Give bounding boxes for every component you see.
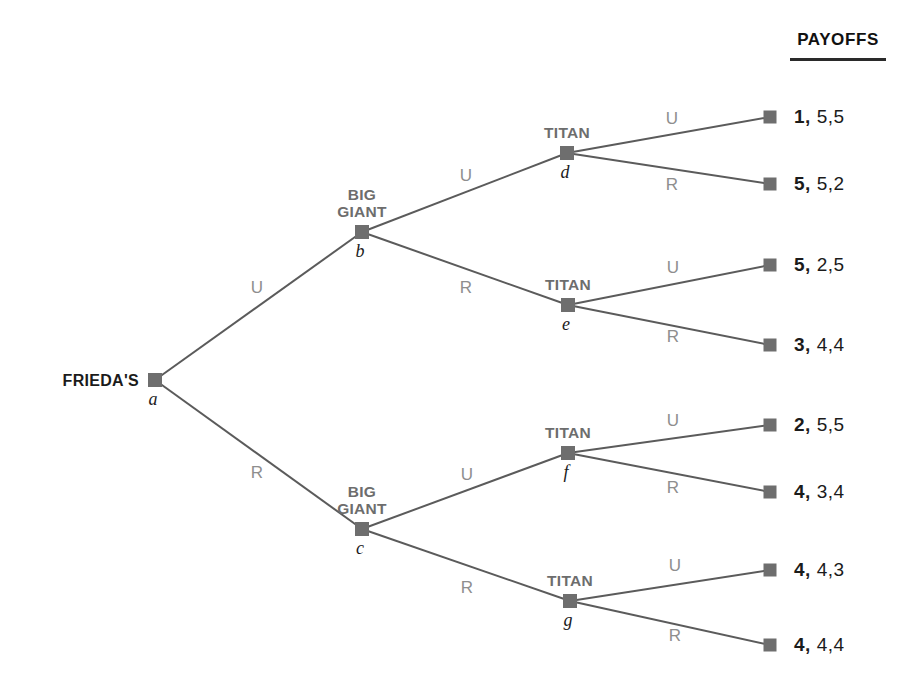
- branch-label-a-r: R: [251, 463, 263, 483]
- node-label-g: g: [564, 610, 573, 631]
- branch-label-d-r: R: [666, 175, 678, 195]
- decision-node-a[interactable]: [148, 373, 162, 387]
- branch-label-c-u: U: [461, 465, 473, 485]
- branch-label-e-u: U: [667, 258, 679, 278]
- node-label-c: c: [356, 538, 364, 559]
- payoff-t8: 4, 4,4: [794, 634, 845, 656]
- terminal-node-t5[interactable]: [764, 419, 777, 432]
- player-label-g: TITAN: [547, 572, 593, 589]
- terminal-node-t1[interactable]: [764, 111, 777, 124]
- terminal-node-t6[interactable]: [764, 486, 777, 499]
- payoff-t4: 3, 4,4: [794, 334, 845, 356]
- branch-label-c-r: R: [461, 578, 473, 598]
- node-label-b: b: [356, 241, 365, 262]
- payoff-t2: 5, 5,2: [794, 173, 845, 195]
- game-tree-diagram: PAYOFFS FRIEDA'SaBIG GIANTbBIG GIANTcTIT…: [0, 0, 913, 685]
- tree-edge: [155, 380, 362, 529]
- branch-label-f-r: R: [667, 478, 679, 498]
- decision-node-f[interactable]: [561, 446, 575, 460]
- node-label-d: d: [561, 162, 570, 183]
- payoffs-underline: [790, 58, 886, 61]
- branch-label-b-u: U: [460, 166, 472, 186]
- tree-edge: [362, 153, 567, 232]
- player-label-e: TITAN: [545, 276, 591, 293]
- decision-node-d[interactable]: [560, 146, 574, 160]
- terminal-node-t7[interactable]: [764, 564, 777, 577]
- payoff-t6: 4, 3,4: [794, 481, 845, 503]
- branch-label-g-r: R: [669, 626, 681, 646]
- player-label-d: TITAN: [544, 124, 590, 141]
- player-label-b: BIG GIANT: [337, 186, 387, 220]
- node-label-a: a: [149, 389, 158, 410]
- payoff-t3: 5, 2,5: [794, 254, 845, 276]
- node-label-e: e: [562, 314, 570, 335]
- payoff-t5: 2, 5,5: [794, 414, 845, 436]
- branch-label-g-u: U: [669, 556, 681, 576]
- payoffs-title: PAYOFFS: [790, 30, 886, 50]
- payoff-t1: 1, 5,5: [794, 106, 845, 128]
- branch-label-e-r: R: [667, 327, 679, 347]
- player-label-f: TITAN: [545, 424, 591, 441]
- player-label-frieda: FRIEDA'S: [63, 372, 139, 389]
- branch-label-a-u: U: [251, 278, 263, 298]
- branch-label-b-r: R: [460, 278, 472, 298]
- node-label-f: f: [563, 462, 568, 483]
- payoffs-header: PAYOFFS: [790, 30, 886, 61]
- branch-label-f-u: U: [667, 411, 679, 431]
- tree-edge: [155, 232, 362, 380]
- decision-node-c[interactable]: [355, 522, 369, 536]
- terminal-node-t4[interactable]: [764, 339, 777, 352]
- branch-label-d-u: U: [666, 109, 678, 129]
- terminal-node-t2[interactable]: [764, 178, 777, 191]
- decision-node-g[interactable]: [563, 594, 577, 608]
- terminal-node-t3[interactable]: [764, 259, 777, 272]
- terminal-node-t8[interactable]: [764, 639, 777, 652]
- decision-node-e[interactable]: [561, 298, 575, 312]
- player-label-c: BIG GIANT: [337, 483, 387, 517]
- payoff-t7: 4, 4,3: [794, 559, 845, 581]
- decision-node-b[interactable]: [355, 225, 369, 239]
